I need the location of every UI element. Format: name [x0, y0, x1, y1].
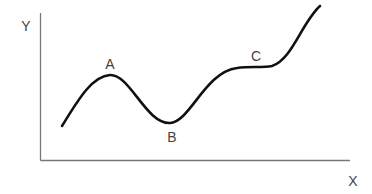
x-axis-label: X: [348, 174, 357, 188]
point-label-c: C: [251, 49, 261, 63]
diagram-canvas: Y X A B C: [0, 0, 372, 194]
point-label-a: A: [105, 57, 114, 71]
y-axis-label: Y: [21, 19, 30, 33]
point-label-b: B: [167, 130, 176, 144]
diagram-graphic: [0, 0, 372, 194]
curve-line: [62, 6, 320, 126]
